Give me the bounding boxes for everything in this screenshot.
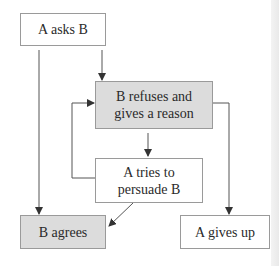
node-label: A gives up	[195, 224, 255, 241]
node-a-tries-to-persuade: A tries to persuade B	[95, 158, 203, 203]
node-label-line1: A tries to	[123, 164, 174, 181]
node-label: A asks B	[38, 21, 88, 38]
node-label-line2: gives a reason	[114, 105, 193, 122]
node-label: B agrees	[39, 224, 88, 241]
node-b-refuses: B refuses and gives a reason	[95, 81, 213, 129]
node-a-gives-up: A gives up	[180, 215, 270, 249]
node-b-agrees: B agrees	[20, 215, 106, 249]
edge-refuse-to-giveup	[213, 103, 229, 214]
edge-persuade-to-agree	[109, 203, 133, 226]
node-label-line1: B refuses and	[116, 88, 192, 105]
node-a-asks-b: A asks B	[20, 13, 106, 46]
node-label-line2: persuade B	[118, 181, 181, 198]
edge-persuade-to-refuse	[72, 103, 95, 178]
